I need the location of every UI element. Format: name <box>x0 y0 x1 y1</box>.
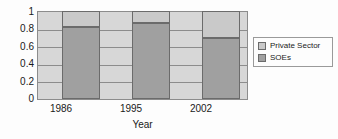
y-tick-0.4: 0.4 <box>1 59 34 69</box>
legend-label-private-sector: Private Sector <box>270 41 320 50</box>
bar-segment-private-sector-2002 <box>202 11 240 38</box>
y-tick-0.8: 0.8 <box>1 24 34 34</box>
stacked-bar-chart: 1 0.8 0.6 0.4 0.2 0 1986 1995 2002 Year <box>0 0 338 139</box>
chart-legend: Private Sector SOEs <box>253 37 333 67</box>
bar-segment-soes-1986 <box>62 27 100 99</box>
legend-label-soes: SOEs <box>270 53 291 62</box>
y-axis: 1 0.8 0.6 0.4 0.2 0 <box>0 11 34 100</box>
y-tick-0: 0 <box>1 94 34 104</box>
legend-swatch-icon-soes <box>258 54 266 62</box>
bar-segment-private-sector-1995 <box>132 11 170 23</box>
legend-item-soes: SOEs <box>258 53 328 62</box>
y-tick-0.6: 0.6 <box>1 42 34 52</box>
y-tick-1: 1 <box>1 7 34 17</box>
x-tick-1995: 1995 <box>101 103 161 114</box>
bar-segment-soes-2002 <box>202 38 240 99</box>
bar-segment-soes-1995 <box>132 23 170 99</box>
x-tick-1986: 1986 <box>31 103 91 114</box>
legend-swatch-icon-private-sector <box>258 42 266 50</box>
x-axis-title: Year <box>37 119 248 130</box>
y-tick-0.2: 0.2 <box>1 77 34 87</box>
legend-item-private-sector: Private Sector <box>258 41 328 50</box>
x-tick-2002: 2002 <box>171 103 231 114</box>
bar-segment-private-sector-1986 <box>62 11 100 27</box>
plot-area <box>37 11 248 100</box>
